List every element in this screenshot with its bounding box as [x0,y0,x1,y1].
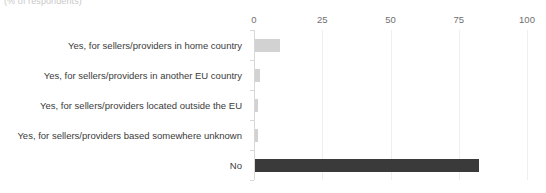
category-label: Yes, for sellers/providers based somewhe… [17,130,242,141]
category-label: No [230,160,242,171]
gridline-25 [322,30,323,180]
x-tick-label-75: 75 [453,14,464,25]
category-tick [250,180,254,181]
gridline-75 [459,30,460,180]
category-tick [250,150,254,151]
chart-subtitle: (% of respondents) [4,0,82,6]
gridline-100 [527,30,528,180]
plot-area [254,30,527,180]
x-tick-label-50: 50 [385,14,396,25]
x-tick-label-25: 25 [317,14,328,25]
chart-container: (% of respondents) 0255075100 Yes, for s… [0,0,546,193]
bar [255,99,258,112]
x-axis-tick-labels: 0255075100 [254,14,527,28]
category-label: Yes, for sellers/providers located outsi… [40,100,242,111]
category-tick [250,60,254,61]
x-tick-label-0: 0 [251,14,256,25]
gridline-50 [391,30,392,180]
bar [255,69,260,82]
category-tick [250,30,254,31]
category-tick [250,90,254,91]
category-tick [250,120,254,121]
y-axis-category-labels: Yes, for sellers/providers in home count… [0,30,250,180]
category-label: Yes, for sellers/providers in another EU… [44,70,242,81]
category-label: Yes, for sellers/providers in home count… [68,40,242,51]
x-tick-label-100: 100 [519,14,535,25]
bar [255,129,258,142]
bar [255,39,280,52]
bar [255,159,479,172]
